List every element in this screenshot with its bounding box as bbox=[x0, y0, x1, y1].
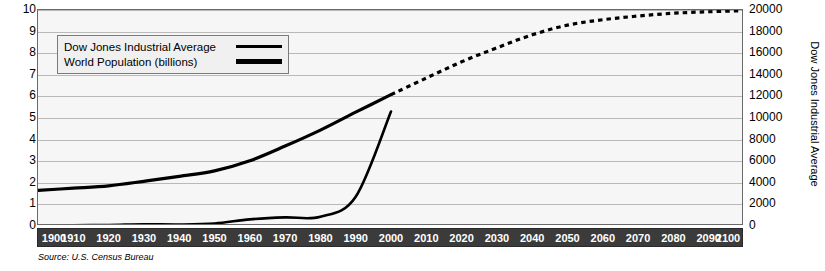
axis-tick-label: 2000 bbox=[749, 197, 776, 209]
right-axis-title: Dow Jones Industrial Average bbox=[809, 0, 821, 229]
axis-tick-label: 8 bbox=[29, 46, 36, 58]
x-axis-tick-label: 2100 bbox=[716, 232, 740, 245]
legend-label-population: World Population (billions) bbox=[64, 56, 197, 68]
axis-tick-label: 20000 bbox=[749, 3, 782, 15]
axis-tick-label: 10 bbox=[23, 3, 36, 15]
axis-tick-label: 7 bbox=[29, 68, 36, 80]
x-axis-tick-label: 1970 bbox=[273, 232, 297, 245]
axis-tick-label: 2 bbox=[29, 176, 36, 188]
legend-line-icon-population bbox=[236, 59, 282, 64]
x-axis-tick-label: 1950 bbox=[202, 232, 226, 245]
x-axis-tick-label: 1960 bbox=[238, 232, 262, 245]
x-axis-tick-label: 1930 bbox=[132, 232, 156, 245]
source-note: Source: U.S. Census Bureau bbox=[38, 252, 154, 262]
series-line bbox=[38, 112, 391, 225]
axis-tick-label: 8000 bbox=[749, 133, 776, 145]
x-axis-tick-label: 2000 bbox=[379, 232, 403, 245]
axis-tick-label: 1 bbox=[29, 197, 36, 209]
legend-line-icon-dow bbox=[236, 45, 282, 48]
legend-label-dow: Dow Jones Industrial Average bbox=[64, 41, 216, 53]
x-axis-tick-label: 1910 bbox=[61, 232, 85, 245]
series-line bbox=[38, 95, 391, 191]
legend-swatch-dow-wrap bbox=[216, 45, 282, 48]
chart-legend: Dow Jones Industrial Average World Popul… bbox=[57, 35, 289, 74]
x-axis-tick-label: 1920 bbox=[96, 232, 120, 245]
axis-tick-label: 12000 bbox=[749, 89, 782, 101]
x-axis-tick-label: 1990 bbox=[343, 232, 367, 245]
axis-tick-label: 6 bbox=[29, 89, 36, 101]
axis-tick-label: 4 bbox=[29, 133, 36, 145]
axis-tick-label: 5 bbox=[29, 111, 36, 123]
axis-tick-label: 9 bbox=[29, 25, 36, 37]
x-axis-tick-label: 1940 bbox=[167, 232, 191, 245]
legend-swatch-population-wrap bbox=[197, 59, 282, 64]
axis-tick-label: 0 bbox=[749, 219, 756, 231]
axis-tick-label: 14000 bbox=[749, 68, 782, 80]
axis-tick-label: 16000 bbox=[749, 46, 782, 58]
legend-item-dow: Dow Jones Industrial Average bbox=[64, 39, 282, 54]
axis-tick-label: 3 bbox=[29, 154, 36, 166]
x-axis-tick-label: 2010 bbox=[414, 232, 438, 245]
x-axis-tick-label: 2060 bbox=[591, 232, 615, 245]
series-line bbox=[391, 11, 743, 95]
x-axis-tick-label: 2030 bbox=[485, 232, 509, 245]
x-axis-tick-label: 1980 bbox=[308, 232, 332, 245]
x-axis-tick-label: 2040 bbox=[520, 232, 544, 245]
x-axis-tick-label: 2070 bbox=[626, 232, 650, 245]
axis-tick-label: 10000 bbox=[749, 111, 782, 123]
axis-tick-label: 4000 bbox=[749, 176, 776, 188]
chart-figure: World Population (billions) Dow Jones In… bbox=[0, 0, 825, 271]
x-axis-tick-label: 2050 bbox=[555, 232, 579, 245]
x-axis-band: 1900191019201930194019501960197019801990… bbox=[37, 228, 743, 247]
x-axis-tick-label: 2020 bbox=[449, 232, 473, 245]
legend-item-population: World Population (billions) bbox=[64, 54, 282, 69]
axis-tick-label: 6000 bbox=[749, 154, 776, 166]
x-axis-tick-label: 2080 bbox=[661, 232, 685, 245]
axis-tick-label: 0 bbox=[29, 219, 36, 231]
axis-tick-label: 18000 bbox=[749, 25, 782, 37]
